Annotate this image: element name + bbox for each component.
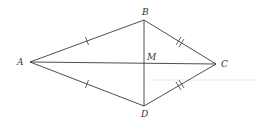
tick-mark-bc-1 (176, 37, 181, 45)
label-d: D (140, 109, 148, 119)
diagonal-ac (30, 62, 216, 64)
segment-cd (144, 64, 216, 106)
tick-mark-dc-2 (179, 80, 184, 88)
label-a: A (16, 57, 24, 67)
tick-mark-dc-1 (176, 82, 181, 90)
tick-mark-bc-2 (179, 39, 184, 47)
label-c: C (221, 59, 228, 69)
label-b: B (141, 7, 149, 17)
kite-diagram: A B C D M (0, 0, 256, 128)
label-m: M (146, 52, 157, 62)
